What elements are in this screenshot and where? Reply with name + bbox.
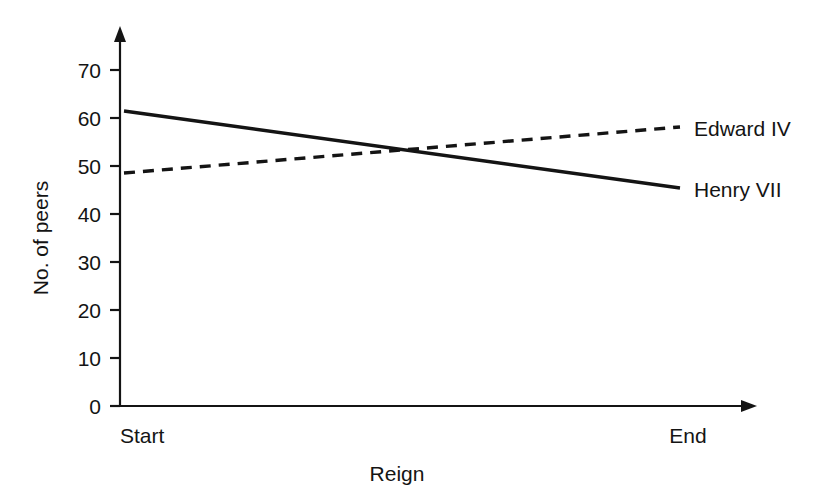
y-tick-label-40: 40 [78,203,101,226]
y-tick-label-10: 10 [78,347,101,370]
x-axis: Start End Reign [120,400,757,485]
line-chart-figure: 70 60 50 40 30 20 10 0 No. of peers Star… [0,0,822,502]
y-tick-label-70: 70 [78,59,101,82]
y-tick-label-0: 0 [89,395,101,418]
series-edward-iv-label: Edward IV [694,117,791,140]
x-axis-title: Reign [370,462,425,485]
series-henry-vii-line [124,111,680,188]
x-axis-arrowhead-icon [741,400,757,412]
series-henry-vii: Henry VII [124,111,782,201]
y-axis-title: No. of peers [29,181,52,295]
y-tick-label-20: 20 [78,299,101,322]
y-axis: 70 60 50 40 30 20 10 0 No. of peers [29,26,126,418]
y-axis-arrowhead-icon [114,26,126,42]
y-tick-label-30: 30 [78,251,101,274]
series-henry-vii-label: Henry VII [694,178,782,201]
chart-canvas: 70 60 50 40 30 20 10 0 No. of peers Star… [0,0,822,502]
x-tick-label-start: Start [120,424,165,447]
x-tick-label-end: End [669,424,706,447]
y-tick-label-50: 50 [78,155,101,178]
y-tick-label-60: 60 [78,107,101,130]
